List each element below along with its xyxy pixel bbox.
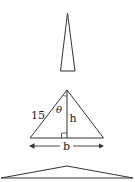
angle-arc	[63, 95, 67, 96]
side-label: 15	[31, 109, 45, 122]
short-wide-triangle	[1, 166, 133, 178]
angle-label: θ	[56, 104, 62, 115]
tall-narrow-triangle	[61, 13, 76, 71]
triangles-diagram: 15 θ h b	[0, 0, 135, 182]
base-label: b	[63, 140, 70, 153]
height-label: h	[70, 112, 77, 125]
right-angle-marker	[62, 133, 68, 138]
labeled-triangle: 15 θ h b	[30, 90, 104, 153]
